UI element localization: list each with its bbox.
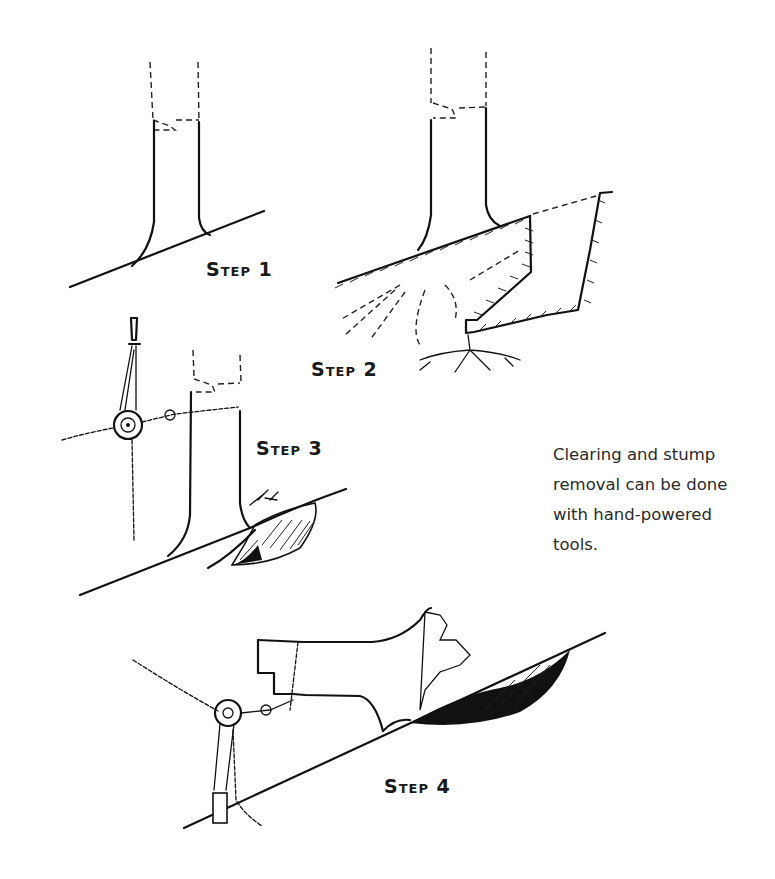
- step-1-drawing: [70, 62, 264, 287]
- step-2-drawing: [335, 48, 612, 372]
- step-2-label: Step 2: [311, 358, 378, 380]
- step-1-label: Step 1: [206, 258, 273, 280]
- figure-caption: Clearing and stump removal can be done w…: [553, 440, 753, 560]
- step-4-label: Step 4: [384, 775, 451, 797]
- step-4-drawing: [133, 608, 605, 828]
- step-3-label: Step 3: [256, 437, 323, 459]
